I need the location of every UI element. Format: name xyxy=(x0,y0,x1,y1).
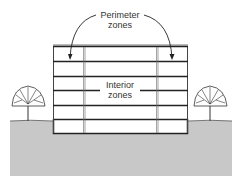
basement-level xyxy=(54,120,188,134)
interior-zones-label: Interior xyxy=(106,80,134,90)
tree-icon xyxy=(12,86,45,121)
left-arrow-icon xyxy=(70,15,96,58)
perimeter-zones-label-line2: zones xyxy=(108,20,133,30)
interior-zones-label-line2: zones xyxy=(108,90,133,100)
building-zones-diagram: Perimeter zones Interior zones xyxy=(0,0,235,184)
tree-icon xyxy=(194,86,227,121)
perimeter-zones-label: Perimeter xyxy=(100,10,139,20)
